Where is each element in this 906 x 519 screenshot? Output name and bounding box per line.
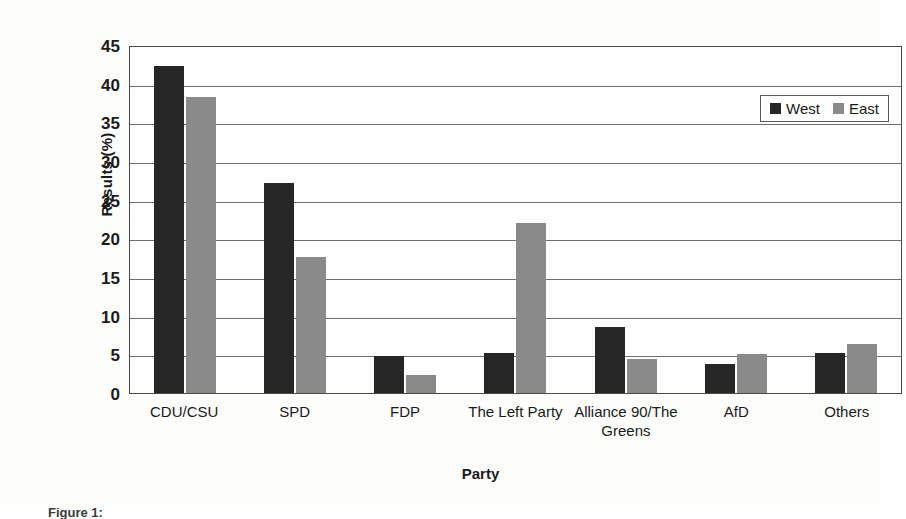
legend-item-west[interactable]: West — [770, 100, 820, 117]
y-tick-5: 5 — [74, 347, 120, 364]
y-tick-40: 40 — [74, 76, 120, 93]
chart-legend: West East — [760, 95, 889, 122]
legend-swatch-west-icon — [770, 103, 781, 114]
legend-label-east: East — [849, 100, 879, 117]
bar-group-spd — [240, 47, 350, 393]
y-tick-20: 20 — [74, 231, 120, 248]
y-tick-45: 45 — [74, 38, 120, 55]
x-tick-afd: AfD — [681, 402, 791, 440]
plot-area: West East — [129, 46, 902, 394]
y-axis-tick-labels: 45 40 35 30 25 20 15 10 5 0 — [74, 46, 120, 394]
bar-west-the-left-party[interactable] — [484, 353, 514, 393]
bar-west-others[interactable] — [815, 353, 845, 393]
y-tick-0: 0 — [74, 386, 120, 403]
y-tick-10: 10 — [74, 308, 120, 325]
x-tick-cdu-csu: CDU/CSU — [129, 402, 239, 440]
y-tick-35: 35 — [74, 115, 120, 132]
bar-west-fdp[interactable] — [374, 356, 404, 393]
x-axis-title: Party — [40, 465, 906, 482]
bar-east-others[interactable] — [847, 344, 877, 393]
bar-west-afd[interactable] — [705, 364, 735, 393]
figure-caption: Figure 1: — [48, 505, 548, 519]
legend-swatch-east-icon — [833, 103, 844, 114]
x-axis-tick-labels: CDU/CSU SPD FDP The Left Party Alliance … — [129, 402, 902, 440]
bar-east-cdu-csu[interactable] — [186, 97, 216, 393]
x-tick-fdp: FDP — [350, 402, 460, 440]
bar-group-alliance-90-the-greens — [571, 47, 681, 393]
legend-item-east[interactable]: East — [833, 100, 879, 117]
x-tick-spd: SPD — [239, 402, 349, 440]
x-tick-others: Others — [792, 402, 902, 440]
y-tick-25: 25 — [74, 192, 120, 209]
bar-west-cdu-csu[interactable] — [154, 66, 184, 393]
grouped-bar-chart: Results (%) 45 40 35 30 25 20 15 10 5 0 — [40, 16, 906, 519]
y-tick-15: 15 — [74, 270, 120, 287]
bar-west-spd[interactable] — [264, 183, 294, 393]
bar-east-alliance-90-the-greens[interactable] — [627, 359, 657, 393]
bar-east-fdp[interactable] — [406, 375, 436, 393]
y-tick-30: 30 — [74, 154, 120, 171]
bar-east-afd[interactable] — [737, 354, 767, 393]
bar-east-spd[interactable] — [296, 257, 326, 393]
bar-group-cdu-csu — [130, 47, 240, 393]
bar-west-alliance-90-the-greens[interactable] — [595, 327, 625, 394]
x-tick-the-left-party: The Left Party — [460, 402, 570, 440]
bar-group-the-left-party — [460, 47, 570, 393]
x-tick-alliance-90-the-greens: Alliance 90/The Greens — [571, 402, 681, 440]
bar-east-the-left-party[interactable] — [516, 223, 546, 393]
bar-group-fdp — [350, 47, 460, 393]
legend-label-west: West — [786, 100, 820, 117]
